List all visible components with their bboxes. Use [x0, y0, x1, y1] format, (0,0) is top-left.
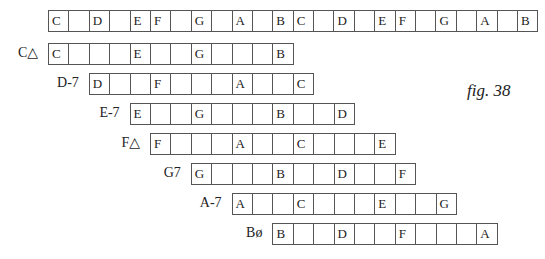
note-cell	[314, 194, 334, 214]
note-cell	[273, 134, 293, 154]
note-cell	[212, 134, 232, 154]
note-cell	[294, 164, 314, 184]
note-cell	[253, 44, 273, 64]
note-cell	[273, 194, 293, 214]
note-cell: D	[334, 11, 354, 31]
chord-label: Bø	[246, 223, 262, 243]
note-cell: B	[273, 164, 293, 184]
chord-label: E-7	[99, 103, 119, 123]
note-cell	[294, 104, 314, 124]
note-cell	[416, 224, 436, 244]
note-cell	[69, 11, 89, 31]
note-cell: A	[477, 11, 497, 31]
note-cell	[171, 11, 191, 31]
note-cell	[314, 224, 334, 244]
note-cell: G	[192, 44, 212, 64]
note-cell	[90, 44, 110, 64]
note-cell	[253, 134, 273, 154]
note-cell	[437, 224, 457, 244]
note-cell	[253, 11, 273, 31]
note-cell	[131, 74, 151, 94]
chord-label: G7	[164, 163, 181, 183]
note-cell: C	[49, 11, 69, 31]
note-cell: D	[90, 74, 110, 94]
note-cell	[314, 11, 334, 31]
note-cell	[151, 44, 171, 64]
note-cell	[171, 134, 191, 154]
note-cell: E	[375, 134, 395, 154]
note-cell: A	[233, 194, 253, 214]
note-cell: B	[273, 11, 293, 31]
note-cell: A	[233, 134, 253, 154]
note-cell: G	[192, 11, 212, 31]
note-cell	[335, 134, 355, 154]
note-cell: A	[233, 11, 253, 31]
note-cell: E	[375, 194, 395, 214]
note-cell: F	[151, 11, 171, 31]
note-cell: F	[396, 11, 416, 31]
note-cell: B	[273, 44, 293, 64]
note-cell	[233, 104, 253, 124]
note-cell: D	[335, 104, 355, 124]
note-cell	[212, 44, 232, 64]
note-cell: D	[335, 224, 355, 244]
note-cell: E	[375, 11, 395, 31]
note-cell	[253, 164, 273, 184]
note-cell: C	[49, 44, 69, 64]
note-cell	[171, 104, 191, 124]
note-cell: G	[436, 11, 456, 31]
note-cell	[294, 224, 314, 244]
note-cell	[192, 134, 212, 154]
note-cell	[212, 74, 232, 94]
chord-row: EGBD	[130, 103, 355, 125]
note-cell	[110, 74, 130, 94]
note-cell: E	[131, 11, 151, 31]
note-cell	[110, 11, 130, 31]
note-cell	[457, 11, 477, 31]
chord-label: A-7	[200, 193, 222, 213]
note-cell	[69, 44, 89, 64]
note-cell	[416, 11, 436, 31]
note-cell: E	[131, 104, 151, 124]
note-cell: A	[477, 224, 497, 244]
note-cell	[273, 74, 293, 94]
note-cell: C	[294, 11, 314, 31]
note-cell	[416, 194, 436, 214]
note-cell	[253, 104, 273, 124]
note-cell: F	[151, 74, 171, 94]
chord-row: CEGB	[48, 43, 294, 65]
note-cell	[151, 104, 171, 124]
chord-row: ACEG	[232, 193, 457, 215]
note-cell: G	[437, 194, 457, 214]
note-cell	[396, 194, 416, 214]
note-cell	[212, 104, 232, 124]
note-cell	[171, 44, 191, 64]
note-cell	[457, 224, 477, 244]
chord-label: D-7	[57, 73, 79, 93]
note-cell	[355, 11, 375, 31]
note-cell	[192, 74, 212, 94]
note-cell	[335, 194, 355, 214]
note-cell: F	[396, 164, 416, 184]
note-cell: B	[273, 104, 293, 124]
note-cell: G	[192, 164, 212, 184]
note-cell	[314, 134, 334, 154]
note-cell: D	[90, 11, 110, 31]
note-cell: C	[294, 134, 314, 154]
note-cell	[355, 194, 375, 214]
note-cell: F	[151, 134, 171, 154]
note-cell: C	[294, 74, 314, 94]
note-cell	[212, 11, 232, 31]
note-cell	[355, 134, 375, 154]
chord-row: FACE	[150, 133, 396, 155]
note-cell	[171, 74, 191, 94]
chord-row: DFAC	[89, 73, 314, 95]
note-cell: B	[273, 224, 293, 244]
note-cell	[314, 104, 334, 124]
chord-label: C△	[18, 43, 38, 63]
note-cell: C	[294, 194, 314, 214]
note-cell	[253, 194, 273, 214]
chord-label: F△	[121, 133, 140, 153]
note-cell	[233, 44, 253, 64]
note-cell: B	[518, 11, 538, 31]
